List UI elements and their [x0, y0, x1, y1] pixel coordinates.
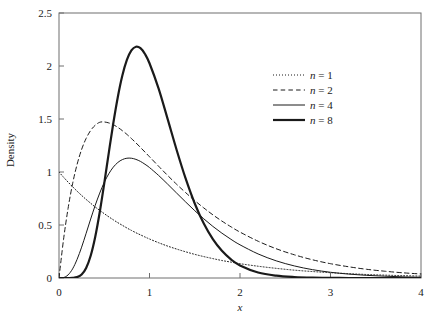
y-axis-title: Density	[4, 132, 16, 167]
x-tick-label: 2	[237, 286, 243, 298]
y-tick-label: 0	[47, 272, 53, 284]
density-curve	[59, 122, 421, 278]
x-tick-label: 1	[147, 286, 153, 298]
x-axis-ticks: 01234	[56, 273, 424, 298]
plot-frame	[59, 13, 421, 278]
y-tick-label: 1	[47, 166, 53, 178]
legend-label: n = 2	[310, 84, 333, 96]
x-tick-label: 0	[56, 286, 62, 298]
y-tick-label: 2.5	[38, 7, 52, 19]
density-curve	[59, 172, 421, 276]
density-curve	[59, 158, 421, 278]
x-tick-label: 3	[328, 286, 334, 298]
density-chart-figure: 00.511.522.5 01234 x Density n = 1n = 2n…	[0, 0, 434, 321]
density-curve	[59, 47, 421, 278]
legend-label: n = 1	[310, 69, 333, 81]
legend-label: n = 4	[310, 99, 333, 111]
density-curves	[59, 47, 421, 278]
x-tick-label: 4	[418, 286, 424, 298]
y-tick-label: 1.5	[38, 113, 52, 125]
y-tick-label: 2	[47, 60, 53, 72]
chart-svg: 00.511.522.5 01234 x Density n = 1n = 2n…	[0, 0, 434, 321]
y-axis-ticks: 00.511.522.5	[38, 7, 64, 284]
x-axis-title: x	[237, 301, 243, 313]
y-tick-label: 0.5	[38, 219, 52, 231]
legend-label: n = 8	[310, 114, 333, 126]
legend: n = 1n = 2n = 4n = 8	[273, 69, 333, 126]
